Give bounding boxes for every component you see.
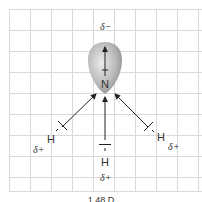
delta-plus-left-label: δ+ xyxy=(33,145,44,155)
dipole-moment-caption: 1.48 D xyxy=(0,196,202,202)
delta-minus-label: δ− xyxy=(100,22,111,32)
bond-dipole-right xyxy=(115,94,154,132)
delta-plus-right-label: δ+ xyxy=(168,142,179,152)
bond-dipole-left xyxy=(56,94,96,131)
bond-dipole-center xyxy=(99,97,111,151)
hydrogen-center-label: H xyxy=(101,157,109,168)
delta-plus-center-label: δ+ xyxy=(100,173,111,183)
ammonia-dipole-diagram: δ− N H δ+ H δ+ H δ+ 1.48 D xyxy=(0,0,202,202)
hydrogen-right-label: H xyxy=(157,132,165,143)
nitrogen-atom-label: N xyxy=(101,79,109,90)
hydrogen-left-label: H xyxy=(47,134,55,145)
